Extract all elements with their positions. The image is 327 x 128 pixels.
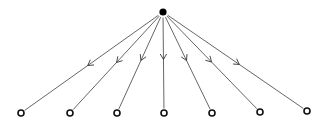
edge-4 <box>163 18 164 109</box>
edges <box>25 15 304 110</box>
leaf-node-2 <box>67 110 73 116</box>
leaf-node-7 <box>304 108 310 114</box>
tree-diagram <box>0 0 327 128</box>
leaf-nodes <box>18 108 310 116</box>
edge-5 <box>165 17 210 109</box>
source-node <box>159 8 166 15</box>
edge-3 <box>119 17 161 109</box>
leaf-node-5 <box>209 110 215 116</box>
leaf-node-6 <box>257 109 263 115</box>
leaf-node-4 <box>161 110 167 116</box>
edge-1 <box>25 15 159 110</box>
leaf-node-1 <box>18 110 24 116</box>
leaf-node-3 <box>114 110 120 116</box>
edge-7 <box>168 15 304 108</box>
